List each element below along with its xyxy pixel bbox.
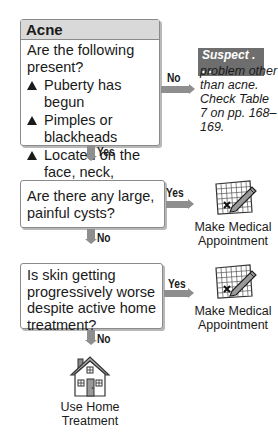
arrow-yes-q1 bbox=[87, 146, 95, 156]
outcome-label-line2: Treatment bbox=[50, 414, 130, 428]
arrow-yes-q3 bbox=[164, 290, 188, 297]
triangle-bullet-icon bbox=[27, 116, 37, 125]
criteria-item: Pimples or blackheads bbox=[27, 112, 153, 145]
suspect-text: problem other than acne. Check Table 7 o… bbox=[200, 64, 278, 134]
label-no-q3: No bbox=[97, 332, 111, 346]
label-yes-q3: Yes bbox=[168, 277, 186, 291]
outcome-medical-appointment: Make Medical Appointment bbox=[188, 262, 278, 332]
arrow-no-q1 bbox=[161, 86, 189, 93]
question-box-cysts: Are there any large, painful cysts? bbox=[20, 180, 165, 228]
question-box-worse: Is skin getting progressively worse desp… bbox=[20, 263, 163, 329]
label-no-q2: No bbox=[97, 231, 111, 245]
question-text: Is skin getting progressively worse desp… bbox=[27, 267, 156, 333]
question-box-acne: Acne Are the following present? Puberty … bbox=[20, 19, 160, 146]
calendar-pencil-icon bbox=[208, 178, 258, 218]
outcome-medical-appointment: Make Medical Appointment bbox=[188, 178, 278, 248]
calendar-pencil-icon bbox=[208, 262, 258, 302]
label-yes-q2: Yes bbox=[166, 186, 184, 200]
outcome-label-line1: Make Medical bbox=[188, 220, 278, 234]
triangle-bullet-icon bbox=[27, 151, 37, 160]
arrow-no-q3 bbox=[87, 330, 95, 340]
arrow-yes-q2 bbox=[166, 201, 188, 208]
label-no-q1: No bbox=[167, 71, 181, 85]
outcome-home-treatment: Use Home Treatment bbox=[50, 354, 130, 428]
arrow-no-q2 bbox=[87, 229, 95, 239]
outcome-label-line1: Make Medical bbox=[188, 304, 278, 318]
question-text: Are there any large, painful cysts? bbox=[27, 188, 158, 221]
criteria-list: Puberty has begun Pimples or blackheads … bbox=[27, 77, 153, 197]
outcome-label-line1: Use Home bbox=[50, 400, 130, 414]
outcome-label-line2: Appointment bbox=[188, 234, 278, 248]
criteria-item: Puberty has begun bbox=[27, 77, 153, 110]
label-yes-q1: Yes bbox=[97, 145, 115, 159]
box-title: Acne bbox=[21, 20, 159, 40]
outcome-label-line2: Appointment bbox=[188, 318, 278, 332]
triangle-bullet-icon bbox=[27, 81, 37, 90]
house-icon bbox=[68, 354, 112, 398]
question-text: Are the following present? bbox=[27, 42, 153, 75]
